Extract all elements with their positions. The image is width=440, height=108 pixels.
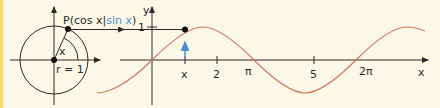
- sine-graph-group: y x 1 2 π 5 2π x: [97, 4, 428, 105]
- x-tick-2pi-label: 2π: [359, 65, 373, 78]
- y-tick-1-label: 1: [138, 21, 145, 34]
- sine-point-dot: [182, 27, 188, 33]
- angle-label: x: [59, 45, 66, 58]
- x-tick-pi-label: π: [245, 65, 252, 78]
- sine-unit-circle-diagram: x r = 1 P(cos x|sin x) y x 1 2 π 5 2π x: [0, 0, 440, 108]
- y-axis-label: y: [143, 4, 150, 17]
- unit-circle-group: x r = 1 P(cos x|sin x): [10, 7, 136, 105]
- x-axis-label: x: [418, 66, 425, 79]
- x-tick-2-label: 2: [213, 68, 220, 81]
- x-tick-5-label: 5: [310, 68, 317, 81]
- diagram-canvas: x r = 1 P(cos x|sin x) y x 1 2 π 5 2π x: [0, 0, 440, 108]
- point-p-label: P(cos x|sin x): [63, 14, 136, 27]
- angle-arc: [64, 38, 78, 60]
- radius-label: r = 1: [56, 63, 84, 76]
- x-marker-label: x: [181, 68, 188, 81]
